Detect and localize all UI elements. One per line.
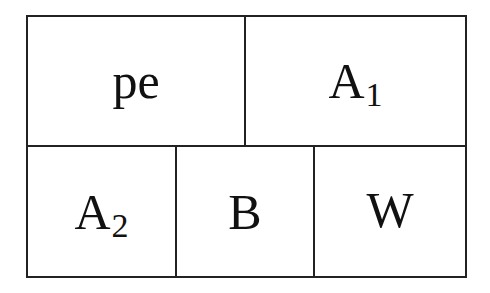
cell-w: W <box>315 147 465 272</box>
cell-subscript: 2 <box>112 209 129 243</box>
cell-b: B <box>177 147 313 276</box>
cell-main-text: A <box>328 56 364 106</box>
cell-main-text: pe <box>112 56 159 106</box>
cell-main-text: W <box>366 185 413 235</box>
cell-pe: pe <box>28 17 244 145</box>
cell-main-text: A <box>74 187 110 237</box>
cell-a2: A2 <box>28 147 175 276</box>
cell-a1: A1 <box>246 17 465 145</box>
cell-main-text: B <box>228 187 261 237</box>
cell-subscript: 1 <box>366 78 383 112</box>
